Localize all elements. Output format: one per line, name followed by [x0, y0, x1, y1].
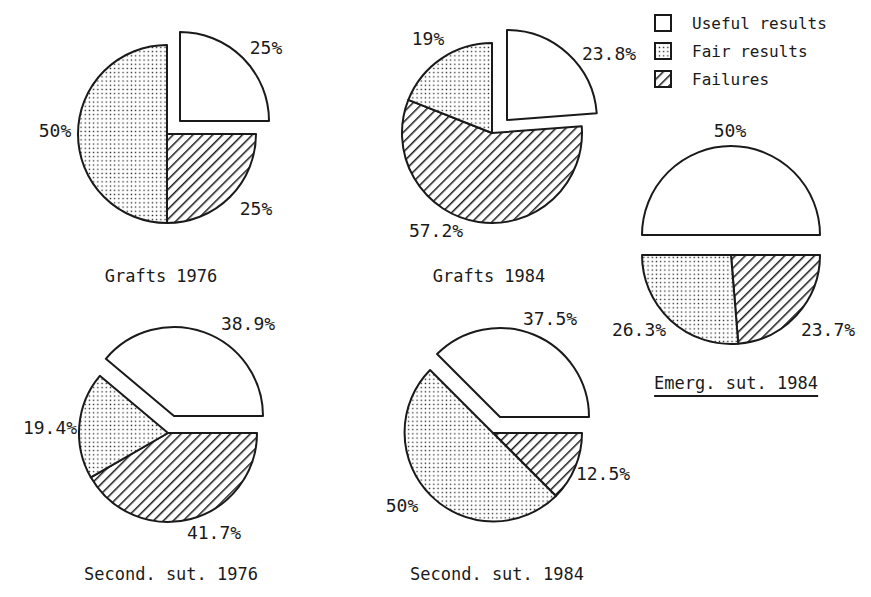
slice-value-label: 12.5% — [576, 463, 630, 484]
slice-value-label: 50% — [714, 120, 747, 141]
legend-label-fair-results: Fair results — [692, 42, 808, 61]
pie-title: Second. sut. 1976 — [84, 564, 258, 584]
slice-value-label: 25% — [250, 37, 283, 58]
slice-value-label: 19.4% — [23, 417, 77, 438]
slice-value-label: 23.7% — [801, 319, 855, 340]
legend-label-useful-results: Useful results — [692, 14, 827, 33]
pie-title: Second. sut. 1984 — [410, 564, 584, 584]
slice-value-label: 26.3% — [612, 319, 666, 340]
legend-item-useful-results: Useful results — [654, 14, 827, 32]
legend-item-failures: Failures — [654, 70, 827, 88]
slice-value-label: 50% — [386, 495, 419, 516]
legend: Useful results Fair results Failures — [654, 14, 827, 88]
pie-title: Emerg. sut. 1984 — [654, 373, 818, 397]
slice-value-label: 25% — [240, 198, 273, 219]
legend-item-fair-results: Fair results — [654, 42, 827, 60]
pie-title: Grafts 1976 — [105, 266, 218, 286]
hatch-swatch-icon — [654, 70, 672, 88]
pie-title: Grafts 1984 — [433, 266, 546, 286]
slice-value-label: 19% — [412, 28, 445, 49]
legend-label-failures: Failures — [692, 70, 769, 89]
dots-swatch-icon — [654, 42, 672, 60]
slice-value-label: 37.5% — [523, 308, 577, 329]
slice-value-label: 41.7% — [187, 522, 241, 543]
slice-value-label: 50% — [39, 120, 72, 141]
slice-value-label: 38.9% — [221, 313, 275, 334]
chart-labels-layer: 25%25%50%Grafts 197623.8%57.2%19%Grafts … — [0, 0, 871, 597]
pie-chart-figure: 25%25%50%Grafts 197623.8%57.2%19%Grafts … — [0, 0, 871, 597]
slice-value-label: 57.2% — [409, 220, 463, 241]
slice-value-label: 23.8% — [582, 43, 636, 64]
plain-swatch-icon — [654, 14, 672, 32]
